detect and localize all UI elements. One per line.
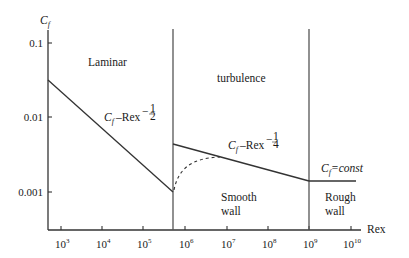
smooth-wall-label-2: wall (221, 205, 241, 217)
x-tick-label: 108 (262, 237, 277, 250)
svg-text:Cf: Cf (104, 111, 116, 126)
y-ticks: 0.1 0.01 0.001 (18, 37, 52, 198)
x-tick-label: 106 (179, 237, 194, 250)
y-axis-label: Cf (40, 14, 52, 29)
laminar-label: Laminar (88, 56, 127, 68)
svg-text:−: − (266, 133, 273, 145)
svg-text:4: 4 (273, 138, 279, 150)
x-axis-label: Rex (367, 223, 386, 235)
rough-equation: Cf=const (321, 162, 364, 177)
turbulence-label: turbulence (217, 72, 266, 84)
svg-text:–Rex: –Rex (115, 111, 141, 123)
skin-friction-chart: Cf 0.1 0.01 0.001 103 104 105 106 107 10… (0, 0, 409, 258)
laminar-equation: Cf –Rex − 1 2 (104, 102, 156, 126)
smooth-wall-label-1: Smooth (221, 191, 257, 203)
x-tick-label: 104 (96, 237, 111, 250)
x-tick-label: 103 (55, 237, 70, 250)
y-tick-label: 0.01 (24, 111, 43, 123)
x-tick-label: 107 (221, 237, 236, 250)
svg-text:Cf: Cf (228, 139, 240, 154)
x-tick-label: 105 (137, 237, 152, 250)
svg-text:–Rex: –Rex (239, 139, 265, 151)
svg-text:2: 2 (150, 110, 156, 122)
rough-wall-label-1: Rough (325, 191, 356, 204)
y-tick-label: 0.1 (29, 37, 43, 49)
y-tick-label: 0.001 (18, 186, 43, 198)
x-tick-label: 1010 (343, 237, 362, 250)
svg-text:Cf=const: Cf=const (321, 162, 364, 177)
laminar-line (48, 80, 173, 192)
svg-text:−: − (142, 105, 149, 117)
transition-dashed-curve (174, 157, 220, 190)
turbulent-equation: Cf –Rex − 1 4 (228, 130, 279, 154)
rough-wall-label-2: wall (325, 205, 345, 217)
x-tick-label: 109 (303, 237, 318, 250)
